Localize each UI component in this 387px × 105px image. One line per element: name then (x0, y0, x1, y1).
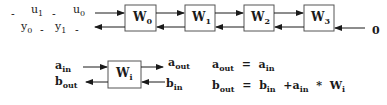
label-a-out: aout (168, 57, 190, 70)
equation-b-out: bout = bin +ain * Wi (212, 80, 345, 93)
cell-label-w3: W3 (311, 11, 330, 25)
seq-y-dash-2: - (75, 25, 79, 36)
label-a-in: ain (55, 60, 71, 73)
label-b-in: bin (166, 78, 183, 91)
seq-y1: y1 (55, 21, 66, 35)
cell-label-wi: Wi (116, 67, 133, 81)
seq-y-dash-1: - (40, 25, 44, 36)
seq-u-dash-2: - (52, 9, 56, 20)
cell-label-w1: W1 (192, 11, 211, 25)
cell-label-w2: W2 (251, 11, 270, 25)
cell-label-w0: W0 (133, 11, 152, 25)
seq-u-dash-1: - (11, 9, 15, 20)
seq-u1: u1 (31, 4, 43, 18)
seq-u0: u0 (73, 4, 85, 18)
seq-y0: y0 (21, 21, 32, 35)
right-input-zero: 0 (372, 25, 380, 36)
equation-a-out: aout = ain (212, 59, 275, 72)
label-b-out: bout (55, 76, 78, 89)
